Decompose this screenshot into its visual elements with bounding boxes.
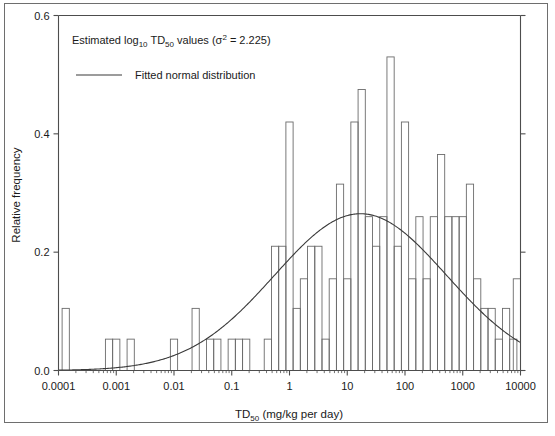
- plot-background: [59, 16, 521, 371]
- x-tick-label: 0.001: [102, 380, 130, 392]
- note-post-pre: values (σ: [174, 34, 223, 46]
- x-axis-tick-labels: 0.00010.0010.010.1110100100010000: [42, 380, 536, 392]
- note-pre: Estimated log: [72, 34, 139, 46]
- note-mid: TD: [148, 34, 166, 46]
- y-axis-title: Relative frequency: [10, 147, 22, 242]
- x-tick-label: 0.1: [224, 380, 239, 392]
- x-axis-title-post: (mg/kg per day): [259, 408, 343, 420]
- y-tick-label: 0.6: [34, 10, 49, 22]
- y-tick-label: 0.2: [34, 246, 49, 258]
- x-tick-label: 100: [396, 380, 414, 392]
- note-post: = 2.225): [227, 34, 271, 46]
- x-axis-ticks: [59, 371, 521, 376]
- histogram-chart: 0.00010.0010.010.1110100100010000 0.00.2…: [0, 0, 555, 436]
- x-axis-title-pre: TD: [235, 408, 250, 420]
- y-axis-tick-labels: 0.00.20.40.6: [34, 10, 49, 377]
- y-tick-label: 0.4: [34, 128, 49, 140]
- x-axis-title: TD50 (mg/kg per day): [235, 408, 343, 423]
- x-tick-label: 0.01: [163, 380, 184, 392]
- y-tick-label: 0.0: [34, 365, 49, 377]
- x-tick-label: 10: [341, 380, 353, 392]
- legend-label-fitted: Fitted normal distribution: [135, 69, 255, 81]
- figure-container: 0.00010.0010.010.1110100100010000 0.00.2…: [0, 0, 555, 436]
- x-tick-label: 1: [286, 380, 292, 392]
- x-tick-label: 0.0001: [42, 380, 76, 392]
- x-tick-label: 10000: [505, 380, 536, 392]
- x-tick-label: 1000: [451, 380, 475, 392]
- plot-area: 0.00010.0010.010.1110100100010000 0.00.2…: [34, 10, 536, 392]
